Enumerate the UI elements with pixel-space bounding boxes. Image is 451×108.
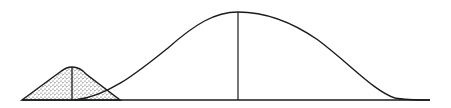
large-distribution-curve	[75, 12, 430, 100]
diagram-canvas	[0, 0, 451, 108]
distribution-diagram	[0, 0, 451, 108]
small-distribution-area	[22, 67, 120, 100]
